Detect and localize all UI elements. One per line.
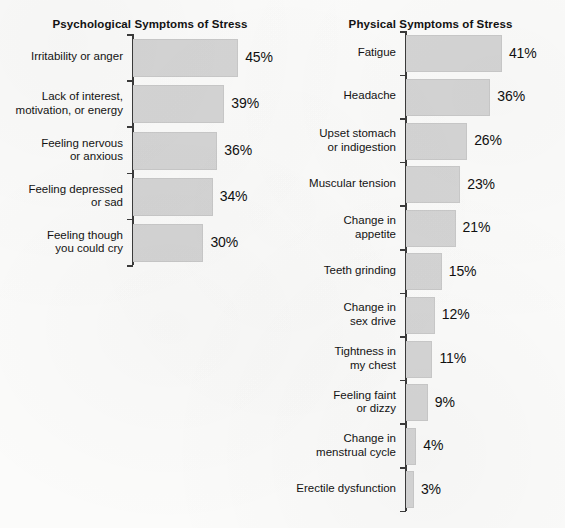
axis-tick xyxy=(127,34,133,36)
bar-row: 4%Change in menstrual cycle xyxy=(405,428,555,463)
bar-value-label: 15% xyxy=(449,263,477,279)
axis-tick xyxy=(127,265,133,267)
bar-row: 21%Change in appetite xyxy=(405,210,555,245)
category-label: Change in menstrual cycle xyxy=(284,432,396,459)
bar xyxy=(406,428,416,465)
category-label: Erectile dysfunction xyxy=(284,482,396,496)
category-label: Feeling depressed or sad xyxy=(0,182,123,209)
bar xyxy=(406,341,432,378)
axis-tick xyxy=(400,118,406,120)
bar-value-label: 36% xyxy=(224,142,252,158)
category-label: Upset stomach or indigestion xyxy=(284,127,396,154)
axis-tick xyxy=(400,205,406,207)
bar xyxy=(406,123,467,160)
bar-row: 3%Erectile dysfunction xyxy=(405,471,555,506)
category-label: Feeling though you could cry xyxy=(0,228,123,255)
bar-value-label: 21% xyxy=(463,219,491,235)
bar-row: 23%Muscular tension xyxy=(405,166,555,201)
bar xyxy=(133,178,213,216)
category-label: Muscular tension xyxy=(284,177,396,191)
category-label: Feeling faint or dizzy xyxy=(284,388,396,415)
bar-value-label: 9% xyxy=(435,394,455,410)
category-label: Teeth grinding xyxy=(284,264,396,278)
axis-tick xyxy=(400,75,406,77)
axis-tick xyxy=(127,126,133,128)
bar-row: 39%Lack of interest, motivation, or ener… xyxy=(132,85,282,121)
bar xyxy=(406,166,460,203)
category-label: Tightness in my chest xyxy=(284,345,396,372)
category-label: Lack of interest, motivation, or energy xyxy=(0,90,123,117)
category-label: Feeling nervous or anxious xyxy=(0,136,123,163)
bar-value-label: 26% xyxy=(474,132,502,148)
bar xyxy=(133,85,224,123)
category-label: Headache xyxy=(284,90,396,104)
axis-tick xyxy=(127,173,133,175)
bar-row: 41%Fatigue xyxy=(405,35,555,70)
axis-tick xyxy=(400,336,406,338)
bar-row: 26%Upset stomach or indigestion xyxy=(405,123,555,158)
bar-value-label: 41% xyxy=(509,45,537,61)
bar-value-label: 36% xyxy=(497,88,525,104)
axis-tick xyxy=(400,162,406,164)
bar xyxy=(406,471,414,508)
axis-tick xyxy=(127,219,133,221)
bar-value-label: 3% xyxy=(421,481,441,497)
category-label: Change in appetite xyxy=(284,214,396,241)
bar-row: 9%Feeling faint or dizzy xyxy=(405,384,555,419)
axis-tick xyxy=(400,31,406,33)
bar xyxy=(406,79,490,116)
bar xyxy=(406,210,456,247)
axis-tick xyxy=(400,423,406,425)
axis-tick xyxy=(400,467,406,469)
bar-value-label: 4% xyxy=(423,437,443,453)
bar-value-label: 12% xyxy=(442,306,470,322)
bar-row: 36%Headache xyxy=(405,79,555,114)
bar-value-label: 30% xyxy=(210,234,238,250)
bar-row: 45%Irritability or anger xyxy=(132,39,282,75)
bar-value-label: 11% xyxy=(439,350,466,366)
bar xyxy=(406,384,428,421)
axis-tick xyxy=(400,511,406,513)
plot-area-psychological: 45%Irritability or anger39%Lack of inter… xyxy=(132,34,282,265)
bar xyxy=(406,253,442,290)
bar xyxy=(133,224,203,262)
category-label: Fatigue xyxy=(284,46,396,60)
category-label: Change in sex drive xyxy=(284,301,396,328)
bar-value-label: 45% xyxy=(245,49,273,65)
chart-title-physical: Physical Symptoms of Stress xyxy=(288,18,565,30)
axis-tick xyxy=(400,293,406,295)
axis-tick xyxy=(400,380,406,382)
bar-row: 12%Change in sex drive xyxy=(405,297,555,332)
bar-value-label: 23% xyxy=(467,176,495,192)
bar xyxy=(406,35,502,72)
category-label: Irritability or anger xyxy=(0,50,123,64)
chart-title-psychological: Psychological Symptoms of Stress xyxy=(0,18,294,30)
bar xyxy=(133,132,217,170)
bar-row: 11%Tightness in my chest xyxy=(405,341,555,376)
plot-area-physical: 41%Fatigue36%Headache26%Upset stomach or… xyxy=(405,31,555,511)
psychological-symptoms-chart: Psychological Symptoms of Stress 45%Irri… xyxy=(0,0,288,528)
bar xyxy=(406,297,435,334)
bar-value-label: 34% xyxy=(220,188,248,204)
physical-symptoms-chart: Physical Symptoms of Stress 41%Fatigue36… xyxy=(288,0,565,528)
bar-row: 34%Feeling depressed or sad xyxy=(132,178,282,214)
bar-row: 15%Teeth grinding xyxy=(405,253,555,288)
bar-value-label: 39% xyxy=(231,95,259,111)
bar xyxy=(133,39,238,77)
scanned-page: Psychological Symptoms of Stress 45%Irri… xyxy=(0,0,565,528)
bar-row: 30%Feeling though you could cry xyxy=(132,224,282,260)
axis-tick xyxy=(400,249,406,251)
bar-row: 36%Feeling nervous or anxious xyxy=(132,132,282,168)
axis-tick xyxy=(127,80,133,82)
